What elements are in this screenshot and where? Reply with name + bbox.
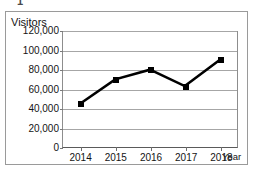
- x-axis-tick-mark: [221, 147, 222, 151]
- x-axis-tick-label: 2015: [105, 152, 127, 163]
- x-axis-tick-label: 2018: [210, 152, 232, 163]
- line-series-visitors: [63, 31, 237, 147]
- data-point-marker: [113, 77, 119, 83]
- y-axis-tick-label: 60,000: [28, 85, 59, 95]
- x-axis-tick-label: 2017: [175, 152, 197, 163]
- y-axis-tick-mark: [60, 148, 63, 149]
- data-point-marker: [78, 101, 84, 107]
- y-axis-tick-label: 20,000: [28, 124, 59, 134]
- y-axis-tick-label: 80,000: [28, 65, 59, 75]
- data-point-marker: [218, 57, 224, 63]
- x-axis-tick-mark: [151, 147, 152, 151]
- y-axis-tick-label: 0: [53, 143, 59, 153]
- x-axis-tick-label: 2016: [140, 152, 162, 163]
- x-axis-tick-mark: [81, 147, 82, 151]
- x-axis-tick-label: 2014: [69, 152, 91, 163]
- plot-area: 020,00040,00060,00080,000100,000120,000 …: [62, 31, 238, 148]
- data-point-marker: [183, 84, 189, 90]
- y-axis-tick-label: 40,000: [28, 104, 59, 114]
- x-axis-tick-mark: [186, 147, 187, 151]
- data-point-marker: [148, 67, 154, 73]
- y-axis-tick-label: 120,000: [23, 26, 59, 36]
- y-axis-tick-label: 100,000: [23, 46, 59, 56]
- figure-number-label: 1: [17, 0, 23, 7]
- x-axis-tick-mark: [116, 147, 117, 151]
